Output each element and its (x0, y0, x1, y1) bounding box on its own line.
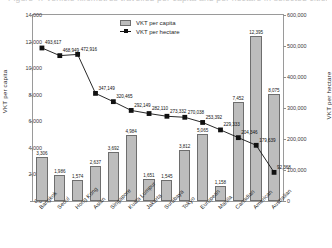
line-value-label: 347,149 (99, 86, 115, 91)
top-cut-caption-text: Figure 4. Vehicle kilometres travelled p… (8, 0, 327, 3)
y-tickmark-left-0 (30, 201, 33, 202)
bar-bangkok[interactable] (36, 157, 47, 201)
bar-value-label: 3,692 (108, 146, 119, 151)
bar-value-label: 12,395 (249, 30, 263, 35)
bar-slot: 3,692 (106, 15, 121, 201)
bar-american[interactable] (250, 36, 261, 201)
line-value-label: 282,110 (152, 106, 168, 111)
bar-slot: 1,158 (213, 15, 228, 201)
y-tickmark-right-0 (283, 201, 286, 202)
line-value-label: 92,368 (277, 165, 291, 170)
y-tick-right-4: 400,000 (287, 74, 307, 80)
bar-value-label: 1,574 (72, 174, 83, 179)
line-value-label: 273,332 (170, 109, 186, 114)
x-axis-category-labels: BangkokSeoulHong KongAsianSingaporeKuala… (33, 204, 283, 248)
bar-slot: 1,574 (70, 15, 85, 201)
line-value-label: 270,038 (188, 110, 204, 115)
legend-line-square-icon (120, 29, 131, 35)
y-tickmark-right-6 (283, 15, 286, 16)
y-tick-right-5: 500,000 (287, 43, 307, 49)
bar-slot: 5,065 (195, 15, 210, 201)
line-value-label: 468,949 (63, 48, 79, 53)
bar-australian[interactable] (268, 94, 279, 201)
bar-canadian[interactable] (233, 102, 244, 201)
bar-value-label: 7,452 (233, 96, 244, 101)
y-tickmark-right-1 (283, 170, 286, 171)
y-tickmark-right-5 (283, 46, 286, 47)
line-value-label: 253,392 (206, 115, 222, 120)
bar-slot: 12,395 (248, 15, 263, 201)
top-cut-caption: Figure 4. Vehicle kilometres travelled p… (0, 0, 327, 11)
legend-item-vkt-per-hectare: VKT per hectare (120, 27, 180, 36)
legend-bar-swatch-icon (120, 20, 131, 26)
y-tick-right-6: 600,000 (287, 12, 307, 18)
y-tick-right-2: 200,000 (287, 136, 307, 142)
line-value-label: 493,617 (45, 40, 61, 45)
line-value-label: 472,916 (81, 47, 97, 52)
chart-legend: VKT per capita VKT per hectare (120, 18, 180, 36)
y-tickmark-right-3 (283, 108, 286, 109)
y-tickmark-right-2 (283, 139, 286, 140)
legend-item-vkt-per-capita: VKT per capita (120, 18, 180, 27)
bar-value-label: 1,545 (161, 174, 172, 179)
bar-value-label: 3,812 (179, 144, 190, 149)
line-value-label: 320,465 (116, 94, 132, 99)
legend-label-vkt-per-capita: VKT per capita (136, 20, 176, 26)
bar-slot: 4,984 (124, 15, 139, 201)
bar-singapore[interactable] (108, 152, 119, 201)
line-value-label: 179,639 (259, 138, 275, 143)
bar-european[interactable] (197, 134, 208, 201)
y-axis-title-left: VKT per capita (1, 62, 8, 122)
line-value-label: 292,149 (134, 103, 150, 108)
bar-value-label: 1,158 (215, 180, 226, 185)
bar-value-label: 2,637 (90, 160, 101, 165)
line-value-label: 204,346 (241, 130, 257, 135)
y-tick-right-3: 300,000 (287, 105, 307, 111)
bar-value-label: 4,984 (126, 129, 137, 134)
bar-value-label: 1,986 (54, 169, 65, 174)
bar-value-label: 8,075 (268, 88, 279, 93)
bar-value-label: 5,065 (197, 128, 208, 133)
bar-slot: 2,637 (88, 15, 103, 201)
y-tickmark-right-4 (283, 77, 286, 78)
y-axis-title-right: VKT per hectare (325, 65, 332, 127)
bar-slot: 8,075 (266, 15, 281, 201)
chart-plot-body: 3,3061,9861,5742,6373,6924,9841,6511,545… (33, 15, 283, 201)
legend-label-vkt-per-hectare: VKT per hectare (136, 29, 180, 35)
y-tick-right-0: 0 (287, 198, 290, 204)
bar-value-label: 1,651 (143, 173, 154, 178)
line-value-label: 229,333 (224, 122, 240, 127)
bar-slot: 7,452 (231, 15, 246, 201)
bar-value-label: 3,306 (36, 151, 47, 156)
